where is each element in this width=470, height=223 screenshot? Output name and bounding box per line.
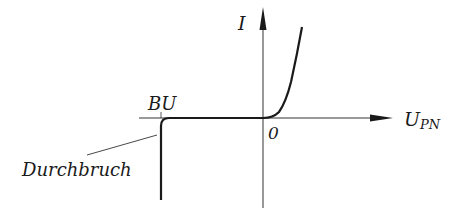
x-axis-label-main: U xyxy=(404,108,421,130)
x-axis-arrow-icon xyxy=(370,115,393,122)
breakdown-leader-line xyxy=(87,135,157,155)
y-axis-arrow-icon xyxy=(260,7,267,30)
x-axis-label-sub: PN xyxy=(419,117,441,132)
y-axis-label: I xyxy=(237,12,246,34)
diode-characteristic-diagram: I UPN 0 BU Durchbruch xyxy=(0,0,470,223)
x-axis-label: UPN xyxy=(404,108,441,132)
breakdown-label: Durchbruch xyxy=(21,159,132,180)
breakdown-voltage-label: BU xyxy=(147,93,177,114)
characteristic-curve xyxy=(161,27,302,200)
origin-label: 0 xyxy=(268,123,279,143)
